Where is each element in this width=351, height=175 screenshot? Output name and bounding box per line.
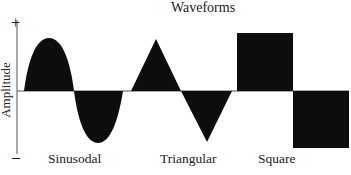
square-label: Square [258,151,296,167]
sine-wave-negative-lobe [74,91,123,143]
square-wave-negative [293,91,349,148]
sine-label: Sinusodal [48,151,101,167]
negative-marker: – [12,148,20,166]
waveform-diagram [0,0,351,175]
sine-wave-positive-lobe [24,38,74,91]
triangle-wave-negative [181,91,232,142]
y-axis-label: Amplitude [0,62,14,118]
triangle-label: Triangular [160,151,217,167]
square-wave-positive [237,33,293,91]
diagram-title: Waveforms [0,0,351,16]
positive-marker: + [11,14,20,32]
triangle-wave-positive [131,39,181,91]
